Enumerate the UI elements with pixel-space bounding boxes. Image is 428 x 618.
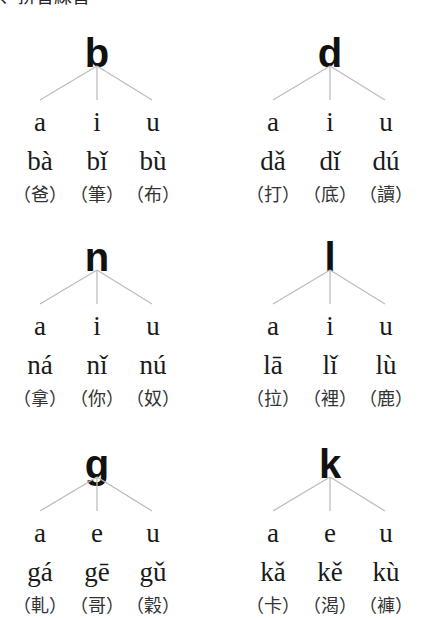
hanzi-character: （奴） bbox=[121, 388, 185, 410]
vowel: a bbox=[20, 519, 60, 547]
branch-lines-icon bbox=[0, 447, 197, 567]
syllable: nǐ bbox=[67, 350, 127, 380]
hanzi-character: （讀） bbox=[354, 184, 418, 206]
syllable: gá bbox=[10, 557, 70, 587]
branch-lines-icon bbox=[230, 36, 428, 156]
syllable: dǐ bbox=[300, 146, 360, 176]
pinyin-block-n: n a i u ná nǐ nú （拿） （你） （奴） bbox=[0, 240, 197, 440]
syllable: bǐ bbox=[67, 146, 127, 176]
vowel: i bbox=[77, 108, 117, 136]
syllable: nú bbox=[123, 350, 183, 380]
hanzi-character: （布） bbox=[121, 184, 185, 206]
hanzi-character: （卡） bbox=[241, 595, 305, 617]
syllable: gē bbox=[67, 557, 127, 587]
hanzi-character: （裡） bbox=[298, 388, 362, 410]
syllable: lù bbox=[356, 350, 416, 380]
syllable: kù bbox=[356, 557, 416, 587]
syllable: ná bbox=[10, 350, 70, 380]
branch-lines-icon bbox=[0, 240, 197, 360]
pinyin-block-d: d a i u dǎ dǐ dú （打） （底） （讀） bbox=[230, 36, 428, 236]
pinyin-block-k: k a e u kǎ kě kù （卡） （渴） （褲） bbox=[230, 447, 428, 618]
syllable: gǔ bbox=[123, 557, 183, 587]
hanzi-character: （筆） bbox=[65, 184, 129, 206]
hanzi-character: （底） bbox=[298, 184, 362, 206]
hanzi-character: （穀） bbox=[121, 595, 185, 617]
vowel: i bbox=[77, 312, 117, 340]
vowel: i bbox=[310, 108, 350, 136]
vowel: u bbox=[133, 519, 173, 547]
hanzi-character: （渴） bbox=[298, 595, 362, 617]
vowel: u bbox=[133, 312, 173, 340]
hanzi-character: （軋） bbox=[8, 595, 72, 617]
syllable: bà bbox=[10, 146, 70, 176]
syllable: bù bbox=[123, 146, 183, 176]
syllable: lā bbox=[243, 350, 303, 380]
vowel: a bbox=[253, 108, 293, 136]
hanzi-character: （打） bbox=[241, 184, 305, 206]
pinyin-block-g: g a e u gá gē gǔ （軋） （哥） （穀） bbox=[0, 447, 197, 618]
vowel: i bbox=[310, 312, 350, 340]
vowel: u bbox=[366, 519, 406, 547]
branch-lines-icon bbox=[230, 447, 428, 567]
syllable: kě bbox=[300, 557, 360, 587]
vowel: a bbox=[253, 519, 293, 547]
vowel: u bbox=[133, 108, 173, 136]
vowel: a bbox=[20, 312, 60, 340]
pinyin-block-b: b a i u bà bǐ bù （爸） （筆） （布） bbox=[0, 36, 197, 236]
pinyin-block-l: l a i u lā lǐ lù （拉） （裡） （鹿） bbox=[230, 240, 428, 440]
hanzi-character: （你） bbox=[65, 388, 129, 410]
vowel: a bbox=[253, 312, 293, 340]
syllable: lǐ bbox=[300, 350, 360, 380]
vowel: u bbox=[366, 108, 406, 136]
syllable: kǎ bbox=[243, 557, 303, 587]
vowel: u bbox=[366, 312, 406, 340]
syllable: dǎ bbox=[243, 146, 303, 176]
hanzi-character: （爸） bbox=[8, 184, 72, 206]
hanzi-character: （褲） bbox=[354, 595, 418, 617]
vowel: e bbox=[77, 519, 117, 547]
vowel: a bbox=[20, 108, 60, 136]
hanzi-character: （鹿） bbox=[354, 388, 418, 410]
hanzi-character: （拉） bbox=[241, 388, 305, 410]
hanzi-character: （拿） bbox=[8, 388, 72, 410]
vowel: e bbox=[310, 519, 350, 547]
branch-lines-icon bbox=[230, 240, 428, 360]
syllable: dú bbox=[356, 146, 416, 176]
hanzi-character: （哥） bbox=[65, 595, 129, 617]
branch-lines-icon bbox=[0, 36, 197, 156]
page-heading: 、拼音練習 bbox=[0, 0, 90, 7]
